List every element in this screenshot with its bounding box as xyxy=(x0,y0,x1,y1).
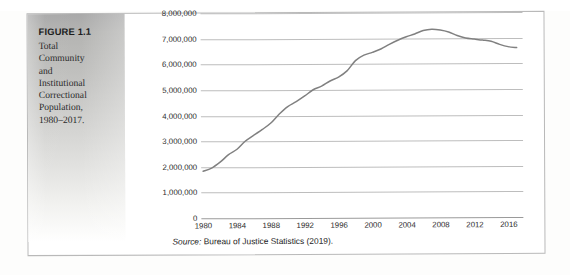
y-axis-tick-label: 0 xyxy=(125,214,197,223)
x-axis-tick-label: 1984 xyxy=(229,221,246,230)
x-axis-tick-label: 2004 xyxy=(398,220,415,229)
page-top-margin xyxy=(0,0,570,11)
source-prefix: Source: xyxy=(172,236,201,246)
x-axis-tick-label: 1980 xyxy=(195,221,212,230)
y-axis-tick-label: 8,000,000 xyxy=(124,9,196,18)
y-axis-tick-label: 6,000,000 xyxy=(125,60,197,69)
line-chart: 8,000,0007,000,0006,000,0005,000,0004,00… xyxy=(124,12,546,246)
scanned-page: FIGURE 1.1 Total Community and Instituti… xyxy=(0,0,570,275)
figure-number-label: FIGURE 1.1 xyxy=(39,26,119,37)
x-axis-tick-label: 1992 xyxy=(297,221,314,230)
y-axis-tick-label: 1,000,000 xyxy=(125,188,197,197)
y-axis-tick-labels: 8,000,0007,000,0006,000,0005,000,0004,00… xyxy=(124,13,197,218)
x-axis-tick-label: 2016 xyxy=(500,220,517,229)
figure-caption-text: Total Community and Institutional Correc… xyxy=(39,40,101,126)
source-note: Source: Bureau of Justice Statistics (20… xyxy=(172,236,333,247)
y-axis-tick-label: 5,000,000 xyxy=(125,86,197,95)
figure-container: FIGURE 1.1 Total Community and Instituti… xyxy=(26,11,545,256)
x-axis-tick-label: 1996 xyxy=(330,221,347,230)
caption-block: FIGURE 1.1 Total Community and Instituti… xyxy=(39,26,119,126)
series-path xyxy=(203,29,518,171)
y-axis-tick-label: 4,000,000 xyxy=(125,111,197,120)
x-axis-tick-labels: 1980198419881992199620002004200820122016 xyxy=(201,220,523,235)
x-axis-tick-label: 1988 xyxy=(263,221,280,230)
y-axis-tick-label: 2,000,000 xyxy=(125,163,197,172)
x-axis-tick-label: 2008 xyxy=(432,220,449,229)
x-axis-tick-label: 2000 xyxy=(364,221,381,230)
chart-area: 8,000,0007,000,0006,000,0005,000,0004,00… xyxy=(124,12,544,255)
source-text: Bureau of Justice Statistics (2019). xyxy=(201,236,333,247)
y-axis-tick-label: 7,000,000 xyxy=(125,35,197,44)
y-axis-tick-label: 3,000,000 xyxy=(125,137,197,146)
x-axis-tick-label: 2012 xyxy=(466,220,483,229)
caption-panel: FIGURE 1.1 Total Community and Instituti… xyxy=(27,14,125,242)
chart-series-line xyxy=(200,12,523,218)
